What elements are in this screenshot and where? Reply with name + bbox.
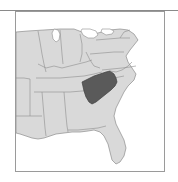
- map-frame: [15, 11, 165, 172]
- eastern-us-landmass: [16, 29, 138, 164]
- locator-map-figure: [0, 0, 178, 182]
- eastern-us-map: [16, 12, 164, 171]
